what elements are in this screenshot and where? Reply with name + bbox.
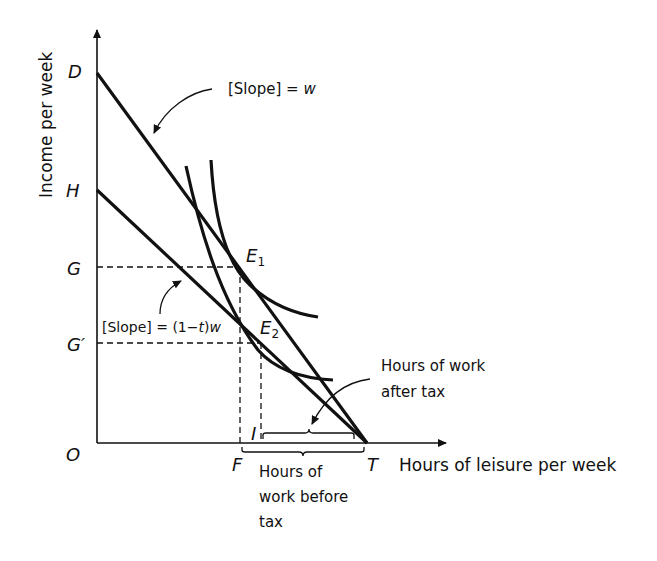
slope-post-tax-arrow <box>160 281 181 314</box>
equilibrium-label-e1: E1 <box>246 245 265 269</box>
point-label-f: F <box>232 454 243 475</box>
labor-leisure-tax-diagram: Income per week Hours of leisure per wee… <box>0 0 657 561</box>
origin-label: O <box>66 444 80 465</box>
indifference-curve-e2 <box>186 166 333 380</box>
diagram-canvas: Income per week Hours of leisure per wee… <box>0 0 657 561</box>
point-label-t: T <box>367 454 380 475</box>
slope-post-tax-label: [Slope] = (1−t)w <box>102 319 221 335</box>
brace-hours-before-tax <box>242 447 364 456</box>
y-axis-label: Income per week <box>36 52 56 198</box>
point-label-h: H <box>66 180 80 201</box>
point-label-g: G <box>67 258 81 279</box>
brace-hours-after-tax <box>263 429 354 439</box>
indifference-curve-e1 <box>211 160 318 317</box>
point-label-i: I <box>251 423 256 444</box>
hours-before-tax-label: Hours of work before tax <box>259 463 353 531</box>
point-label-g-prime: G′ <box>67 334 85 355</box>
point-label-d: D <box>68 61 82 82</box>
dashed-guides <box>97 267 261 443</box>
hours-after-tax-label: Hours of work after tax <box>381 357 490 401</box>
slope-pre-tax-arrow <box>154 89 212 133</box>
post-tax-budget-line <box>97 190 367 443</box>
slope-pre-tax-label: [Slope] = w <box>228 80 316 98</box>
x-axis-label: Hours of leisure per week <box>399 455 616 475</box>
